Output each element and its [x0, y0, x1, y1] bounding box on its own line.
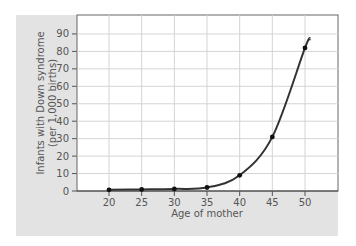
x-tick-label: 40 [233, 197, 246, 208]
y-tick-label: 20 [56, 151, 69, 162]
data-point [139, 187, 144, 192]
data-point [172, 187, 177, 192]
y-tick-label: 0 [63, 186, 69, 197]
y-axis: 0102030405060708090 [56, 28, 77, 196]
y-tick-label: 40 [56, 116, 69, 127]
y-tick-label: 80 [56, 46, 69, 57]
y-axis-label-line2: (per 1,000 births) [47, 59, 58, 147]
y-tick-label: 60 [56, 81, 69, 92]
y-tick-label: 70 [56, 63, 69, 74]
y-tick-label: 10 [56, 168, 69, 179]
x-tick-label: 25 [135, 197, 148, 208]
line-chart: 0102030405060708090 20253035404550 Age o… [0, 0, 356, 246]
y-tick-label: 90 [56, 28, 69, 39]
data-point [270, 135, 275, 140]
data-point [303, 46, 308, 51]
x-axis: 20253035404550 [77, 191, 338, 208]
y-tick-label: 50 [56, 98, 69, 109]
x-tick-label: 35 [201, 197, 214, 208]
x-tick-label: 45 [266, 197, 279, 208]
y-axis-label-line1: Infants with Down syndrome [35, 31, 46, 174]
x-tick-label: 20 [103, 197, 116, 208]
data-point [205, 185, 210, 190]
data-point [237, 173, 242, 178]
data-point [107, 187, 112, 192]
x-tick-label: 30 [168, 197, 181, 208]
x-axis-label: Age of mother [171, 208, 244, 219]
x-tick-label: 50 [299, 197, 312, 208]
y-tick-label: 30 [56, 133, 69, 144]
